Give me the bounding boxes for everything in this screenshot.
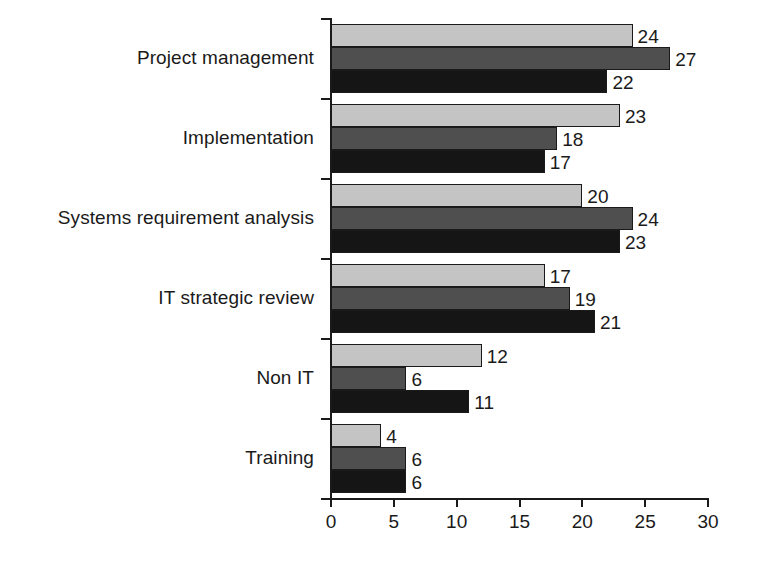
bar bbox=[331, 447, 406, 470]
bar bbox=[331, 24, 633, 47]
x-axis-tick bbox=[393, 498, 395, 507]
category-label: Non IT bbox=[256, 368, 314, 387]
bar-value-label: 17 bbox=[550, 153, 571, 172]
bar-value-label: 6 bbox=[411, 450, 422, 469]
category-axis-labels: Project managementImplementationSystems … bbox=[0, 0, 322, 570]
x-axis-tick-label: 20 bbox=[572, 512, 593, 532]
bar-value-label: 6 bbox=[411, 473, 422, 492]
bar-chart: Project managementImplementationSystems … bbox=[0, 0, 774, 570]
bar bbox=[331, 390, 469, 413]
x-axis-tick bbox=[707, 498, 709, 507]
category-label: Implementation bbox=[183, 128, 314, 147]
bar bbox=[331, 264, 545, 287]
bar-value-label: 21 bbox=[600, 313, 621, 332]
bar bbox=[331, 150, 545, 173]
bar-value-label: 23 bbox=[625, 233, 646, 252]
x-axis-tick-label: 5 bbox=[389, 512, 400, 532]
bar-value-label: 19 bbox=[575, 290, 596, 309]
x-axis-tick bbox=[456, 498, 458, 507]
category-label: IT strategic review bbox=[158, 288, 314, 307]
category-label: Project management bbox=[137, 48, 314, 67]
bar bbox=[331, 367, 406, 390]
x-axis-tick-label: 10 bbox=[446, 512, 467, 532]
bar bbox=[331, 230, 620, 253]
bar-value-label: 4 bbox=[386, 427, 397, 446]
bar-value-label: 24 bbox=[638, 210, 659, 229]
bar bbox=[331, 470, 406, 493]
bar-value-label: 18 bbox=[562, 130, 583, 149]
bar-value-label: 17 bbox=[550, 267, 571, 286]
category-label: Training bbox=[245, 448, 314, 467]
bar bbox=[331, 310, 595, 333]
bar-value-label: 27 bbox=[675, 50, 696, 69]
bar-value-label: 12 bbox=[487, 347, 508, 366]
y-axis-tick bbox=[321, 18, 330, 20]
bar bbox=[331, 127, 557, 150]
x-axis-tick-label: 15 bbox=[509, 512, 530, 532]
bar bbox=[331, 47, 670, 70]
y-axis-tick bbox=[321, 178, 330, 180]
plot-area: 0510152025302427222318172024231719211261… bbox=[330, 18, 707, 498]
x-axis-tick-label: 25 bbox=[635, 512, 656, 532]
bar bbox=[331, 184, 582, 207]
y-axis-tick bbox=[321, 258, 330, 260]
x-axis-tick-label: 30 bbox=[697, 512, 718, 532]
category-label: Systems requirement analysis bbox=[58, 208, 314, 227]
bar-value-label: 22 bbox=[612, 73, 633, 92]
bar bbox=[331, 70, 607, 93]
x-axis-tick bbox=[519, 498, 521, 507]
bar bbox=[331, 424, 381, 447]
bar bbox=[331, 344, 482, 367]
y-axis-tick bbox=[321, 498, 330, 500]
y-axis-tick bbox=[321, 98, 330, 100]
bar bbox=[331, 207, 633, 230]
y-axis-tick bbox=[321, 418, 330, 420]
x-axis-tick bbox=[581, 498, 583, 507]
bar bbox=[331, 104, 620, 127]
bar bbox=[331, 287, 570, 310]
y-axis-tick bbox=[321, 338, 330, 340]
x-axis-tick-label: 0 bbox=[326, 512, 337, 532]
bar-value-label: 11 bbox=[474, 393, 494, 412]
bar-value-label: 6 bbox=[411, 370, 422, 389]
bar-value-label: 23 bbox=[625, 107, 646, 126]
x-axis-tick bbox=[330, 498, 332, 507]
bar-value-label: 24 bbox=[638, 27, 659, 46]
x-axis-tick bbox=[644, 498, 646, 507]
bar-value-label: 20 bbox=[587, 187, 608, 206]
